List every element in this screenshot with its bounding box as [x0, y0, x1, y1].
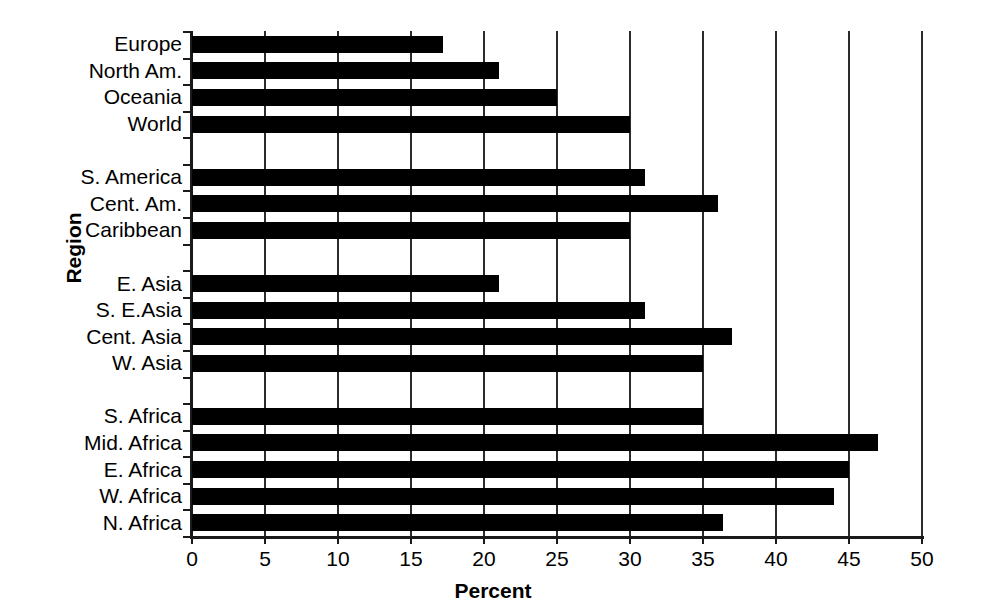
y-tick-5 — [183, 164, 192, 166]
y-axis-tick-labels: EuropeNorth Am.OceaniaWorldS. AmericaCen… — [0, 31, 186, 536]
bar — [192, 62, 499, 79]
bar — [192, 434, 878, 451]
y-tick-4 — [183, 137, 192, 139]
y-tick-1 — [183, 58, 192, 60]
x-tick-50 — [921, 536, 923, 544]
y-tick-label: World — [128, 113, 182, 134]
bar — [192, 302, 645, 319]
y-tick-label: Europe — [114, 33, 182, 54]
y-tick-7 — [183, 217, 192, 219]
y-tick-label: Mid. Africa — [84, 432, 182, 453]
y-tick-12 — [183, 350, 192, 352]
bar — [192, 328, 732, 345]
y-tick-18 — [183, 509, 192, 511]
y-tick-label: Oceania — [104, 86, 182, 107]
x-tick-40 — [775, 536, 777, 544]
y-tick-end — [183, 536, 192, 538]
y-tick-2 — [183, 84, 192, 86]
y-tick-label: W. Asia — [112, 352, 182, 373]
y-tick-10 — [183, 297, 192, 299]
bar — [192, 116, 630, 133]
bar — [192, 89, 557, 106]
x-tick-label-10: 10 — [308, 548, 368, 569]
x-tick-35 — [702, 536, 704, 544]
y-tick-8 — [183, 244, 192, 246]
y-tick-label: S. America — [80, 166, 182, 187]
x-tick-label-50: 50 — [892, 548, 952, 569]
bar — [192, 36, 443, 53]
y-tick-label: E. Asia — [117, 273, 182, 294]
y-tick-label: North Am. — [89, 60, 182, 81]
bar — [192, 222, 630, 239]
x-axis-title: Percent — [0, 580, 986, 601]
y-tick-label: S. Africa — [104, 405, 182, 426]
x-tick-15 — [410, 536, 412, 544]
x-tick-label-0: 0 — [162, 548, 222, 569]
x-tick-label-15: 15 — [381, 548, 441, 569]
plot-area — [192, 31, 922, 536]
y-tick-label: Cent. Am. — [90, 193, 182, 214]
x-tick-30 — [629, 536, 631, 544]
bar — [192, 195, 718, 212]
x-tick-label-40: 40 — [746, 548, 806, 569]
y-tick-9 — [183, 270, 192, 272]
x-tick-10 — [337, 536, 339, 544]
gridline-50 — [921, 31, 923, 536]
y-tick-label: Caribbean — [85, 219, 182, 240]
y-tick-label: S. E.Asia — [96, 299, 182, 320]
y-tick-label: Cent. Asia — [86, 326, 182, 347]
y-tick-3 — [183, 111, 192, 113]
x-tick-25 — [556, 536, 558, 544]
bar — [192, 514, 723, 531]
chart-screenshot: Region EuropeNorth Am.OceaniaWorldS. Ame… — [0, 0, 986, 613]
x-tick-label-45: 45 — [819, 548, 879, 569]
y-tick-13 — [183, 377, 192, 379]
bar — [192, 461, 849, 478]
y-tick-label: N. Africa — [103, 512, 182, 533]
bar — [192, 355, 703, 372]
y-tick-16 — [183, 456, 192, 458]
x-tick-label-30: 30 — [600, 548, 660, 569]
bar — [192, 169, 645, 186]
x-tick-label-5: 5 — [235, 548, 295, 569]
y-tick-14 — [183, 403, 192, 405]
y-tick-6 — [183, 190, 192, 192]
x-tick-20 — [483, 536, 485, 544]
y-tick-0 — [183, 31, 192, 33]
bar — [192, 408, 703, 425]
y-tick-11 — [183, 323, 192, 325]
bar — [192, 488, 834, 505]
y-tick-17 — [183, 483, 192, 485]
y-tick-15 — [183, 430, 192, 432]
x-tick-label-20: 20 — [454, 548, 514, 569]
x-tick-label-25: 25 — [527, 548, 587, 569]
y-tick-label: W. Africa — [99, 485, 182, 506]
x-tick-45 — [848, 536, 850, 544]
x-tick-label-35: 35 — [673, 548, 733, 569]
x-tick-5 — [264, 536, 266, 544]
y-tick-label: E. Africa — [104, 459, 182, 480]
bar — [192, 275, 499, 292]
